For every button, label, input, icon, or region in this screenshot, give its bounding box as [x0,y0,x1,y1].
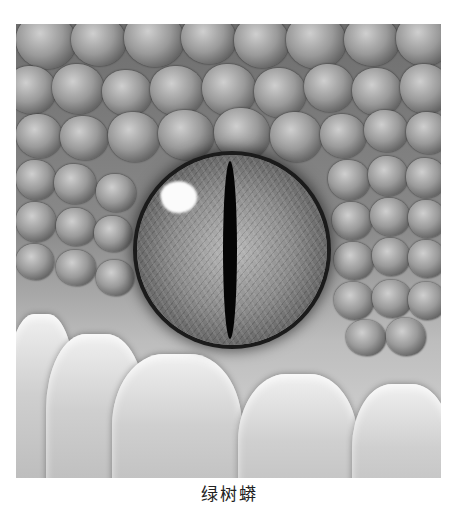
scale [214,108,270,160]
scale [334,282,374,320]
scale [386,318,426,356]
scale [346,320,386,356]
scale [368,156,408,196]
scale [16,160,56,200]
scale [96,174,136,212]
scale [370,198,410,236]
scale [408,240,441,278]
scale [320,114,366,158]
scale [16,24,76,69]
scale [234,24,289,68]
scale [286,24,346,69]
scale [408,200,441,238]
scale [181,24,236,64]
scale [304,64,354,112]
scale [254,68,306,118]
scale [96,260,134,296]
reptile-eye-photo [16,24,441,478]
scale [56,208,96,246]
scale [344,24,399,66]
scale [270,112,322,162]
scale [352,68,402,116]
scale [400,64,441,114]
scale [52,64,104,114]
scale [332,202,372,240]
scale [71,24,126,66]
scale [396,24,441,66]
lip-scale [238,374,358,478]
scale [54,164,96,204]
scale [158,110,214,160]
scale [16,66,56,114]
scale [56,250,96,286]
scale [372,238,410,276]
scale [60,116,108,160]
lip-scale [112,354,242,478]
scale [16,244,54,280]
scale [108,112,160,162]
scale [406,112,441,154]
image-caption: 绿树蟒 [0,480,458,505]
scale [94,216,132,252]
scale [372,280,412,318]
scale [16,114,62,158]
scale [328,160,370,200]
scale [124,24,184,67]
slit-pupil [223,161,237,339]
scale [334,242,374,280]
eye [137,155,327,345]
scale [406,158,441,198]
scale [408,282,441,320]
scale [102,70,152,116]
scale [364,110,408,152]
scale [150,66,204,116]
scale [16,202,56,242]
lip-scale [352,384,441,478]
